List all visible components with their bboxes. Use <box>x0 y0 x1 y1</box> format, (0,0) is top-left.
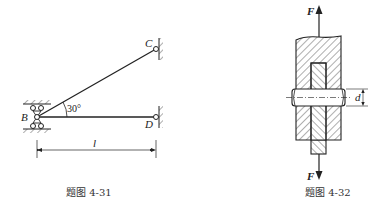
inner-plate <box>311 63 326 154</box>
label-length: l <box>93 137 96 149</box>
label-force-top: F <box>306 5 315 17</box>
bar-bc <box>37 49 156 117</box>
label-force-bottom: F <box>306 170 315 182</box>
wall-d <box>154 106 164 128</box>
pin <box>286 89 352 106</box>
figure-4-31: B C D 30° l 题图 4-31 <box>21 37 163 198</box>
roller-support-bottom <box>23 124 51 134</box>
wall-c <box>154 38 164 60</box>
arrowhead-bottom <box>316 171 323 180</box>
joint-d <box>154 115 159 120</box>
joint-c <box>154 47 159 52</box>
label-diameter: d <box>355 91 361 103</box>
label-b: B <box>21 111 28 123</box>
caption-4-32: 题图 4-32 <box>305 187 351 198</box>
caption-4-31: 题图 4-31 <box>66 187 112 198</box>
arrowhead-top <box>316 5 323 14</box>
dimension-l <box>37 140 156 158</box>
roller-support-top <box>23 100 51 111</box>
joint-b <box>35 115 40 120</box>
label-c: C <box>145 37 153 49</box>
label-angle: 30° <box>67 103 81 114</box>
label-d: D <box>144 118 153 130</box>
figure-4-32: F d F 题图 4-32 <box>286 5 368 198</box>
